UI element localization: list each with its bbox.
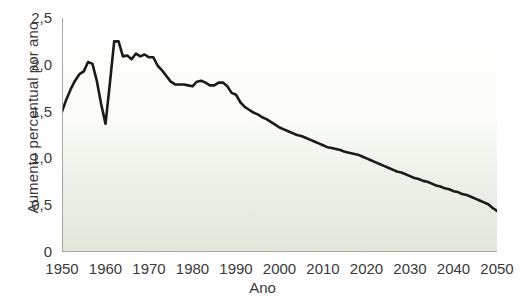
y-tick-label: 0 — [0, 243, 52, 260]
plot-background — [62, 18, 497, 252]
x-tick-label: 2000 — [256, 260, 304, 277]
x-tick-label: 2030 — [386, 260, 434, 277]
plot-area — [62, 18, 497, 252]
chart-svg — [62, 18, 497, 252]
x-tick-label: 1990 — [212, 260, 260, 277]
x-tick-label: 2050 — [473, 260, 521, 277]
x-tick-label: 1980 — [169, 260, 217, 277]
x-tick-label: 1950 — [38, 260, 86, 277]
x-tick-label: 1970 — [125, 260, 173, 277]
x-tick-label: 2020 — [343, 260, 391, 277]
x-tick-label: 2040 — [430, 260, 478, 277]
population-growth-chart: Aumento percentual por ano 00,51,01,52,0… — [0, 0, 525, 303]
x-tick-label: 1960 — [82, 260, 130, 277]
x-tick-label: 2010 — [299, 260, 347, 277]
x-axis-title: Ano — [0, 279, 525, 296]
y-axis-title: Aumento percentual por ano — [24, 2, 41, 234]
